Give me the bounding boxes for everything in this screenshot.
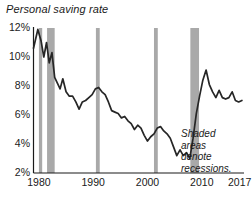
annotation-line: denote (181, 151, 247, 163)
y-axis-tick-label: 12% (0, 21, 30, 33)
y-axis-tick-label: 8% (0, 79, 30, 91)
annotation-line: recessions. (181, 163, 247, 175)
recession-annotation: Shadedareasdenoterecessions. (181, 128, 247, 174)
y-axis-tick-label: 10% (0, 50, 30, 62)
x-axis-tick-label: 2017 (218, 176, 252, 188)
annotation-line: areas (181, 140, 247, 152)
y-axis-tick-label: 6% (0, 108, 30, 120)
recession-band (154, 28, 158, 173)
recession-band (96, 28, 100, 173)
x-axis-tick-label: 1990 (71, 176, 115, 188)
chart-figure: Personal saving rate 12%10%8%6%4%2% 1980… (0, 0, 252, 200)
y-axis-tick-label: 4% (0, 137, 30, 149)
recession-band (39, 28, 42, 173)
x-axis-tick-label: 1980 (17, 176, 61, 188)
x-axis-tick-label: 2000 (126, 176, 170, 188)
annotation-line: Shaded (181, 128, 247, 140)
